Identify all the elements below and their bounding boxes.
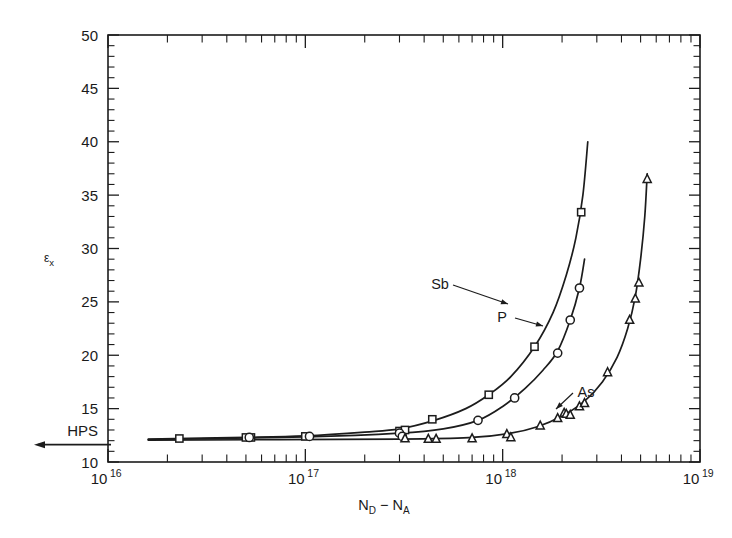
marker-circle-p [575, 284, 583, 292]
right-axis-ticks [689, 35, 700, 462]
marker-circle-p [566, 316, 574, 324]
marker-triangle-as [432, 434, 440, 442]
marker-triangle-as [424, 434, 432, 442]
chart-plot: SbPAs 504540353025201510HPS1016101710181… [0, 0, 732, 538]
hps-arrow-head [34, 441, 45, 448]
marker-triangle-as [635, 278, 643, 286]
x-tick-base: 10 [485, 470, 502, 487]
data-curves [148, 142, 647, 440]
series-label-p: P [497, 309, 507, 325]
y-tick-label: 25 [81, 293, 98, 310]
leader-head-sb [501, 299, 508, 304]
marker-triangle-as [536, 421, 544, 429]
x-tick-exponent: 18 [505, 467, 517, 479]
x-tick-exponent: 16 [110, 467, 122, 479]
data-markers [176, 175, 651, 443]
y-tick-label: 50 [81, 27, 98, 44]
series-label-sb: Sb [431, 276, 449, 292]
marker-circle-p [511, 394, 519, 402]
marker-circle-p [474, 416, 482, 424]
marker-triangle-as [468, 434, 476, 442]
curve-as [148, 174, 647, 440]
x-tick-label: 1018 [485, 467, 516, 487]
axis-labels: 504540353025201510HPS1016101710181019ND … [44, 27, 714, 517]
x-tick-base: 10 [91, 470, 108, 487]
hps-label: HPS [67, 422, 98, 439]
marker-circle-p [245, 433, 253, 441]
x-axis-ticks [108, 449, 700, 462]
x-tick-label: 1016 [91, 467, 122, 487]
marker-square-sb [176, 435, 183, 442]
axes-frame [108, 35, 700, 462]
marker-triangle-as [631, 294, 639, 302]
x-tick-exponent: 17 [307, 467, 319, 479]
marker-circle-p [305, 432, 313, 440]
marker-triangle-as [626, 315, 634, 323]
marker-square-sb [429, 416, 436, 423]
marker-circle-p [554, 349, 562, 357]
figure-container: SbPAs 504540353025201510HPS1016101710181… [0, 0, 732, 538]
y-tick-label: 10 [81, 454, 98, 471]
curve-p [148, 259, 584, 439]
y-tick-label: 15 [81, 400, 98, 417]
y-tick-label: 20 [81, 347, 98, 364]
top-axis-ticks [108, 35, 700, 48]
marker-square-sb [578, 209, 585, 216]
plot-frame [108, 35, 700, 462]
leader-line-sb [453, 285, 508, 304]
x-tick-label: 1019 [683, 467, 714, 487]
series-label-as: As [578, 384, 595, 400]
y-axis-ticks [108, 35, 119, 462]
leader-head-p [536, 322, 543, 327]
marker-triangle-as [643, 175, 651, 183]
y-tick-label: 40 [81, 133, 98, 150]
x-axis-title: ND − NA [358, 497, 410, 516]
marker-square-sb [531, 343, 538, 350]
curve-sb [148, 142, 588, 439]
x-tick-base: 10 [288, 470, 305, 487]
marker-square-sb [485, 391, 492, 398]
x-tick-label: 1017 [288, 467, 319, 487]
y-axis-title: εx [44, 251, 54, 268]
y-tick-label: 30 [81, 240, 98, 257]
y-tick-label: 45 [81, 80, 98, 97]
x-tick-base: 10 [683, 470, 700, 487]
y-tick-label: 35 [81, 187, 98, 204]
x-tick-exponent: 19 [702, 467, 714, 479]
